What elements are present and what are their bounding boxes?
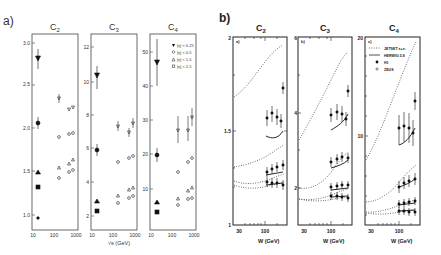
svg-text:c): c): [368, 39, 372, 44]
a-c3-yticks: 12 10 8 6 4 2: [83, 44, 89, 219]
svg-text:2: 2: [228, 35, 231, 41]
a-c2-yticks: 3.0 2.5 2.0 1.5 1.0: [23, 40, 30, 218]
svg-text:30: 30: [236, 228, 242, 234]
svg-text:10: 10: [83, 79, 89, 85]
panel-a-c4-plot: C4 50 40 30 20 10 10 100 1000 |η| < 0.25…: [142, 22, 199, 238]
svg-text:10: 10: [89, 232, 95, 238]
b-c3-points: [330, 85, 349, 202]
svg-text:8: 8: [86, 112, 89, 118]
a-c4-xticks: 10 100 1000: [148, 232, 200, 238]
b-c3-xlabel: W (GeV): [323, 238, 345, 244]
svg-text:100: 100: [261, 228, 270, 234]
svg-text:100: 100: [168, 232, 177, 238]
svg-text:|η| < 0.25: |η| < 0.25: [177, 43, 194, 48]
svg-text:12: 12: [83, 44, 89, 50]
b-c3-herwig: [331, 114, 348, 197]
a-c2-xticks: 10 100 1000: [30, 232, 82, 238]
b-c3-frame: [298, 37, 352, 225]
b-c4-herwig: [399, 128, 415, 211]
svg-text:100: 100: [395, 228, 404, 234]
b-c4-title: C4: [389, 23, 400, 34]
svg-text:b): b): [301, 39, 305, 44]
a-c2-frame: [32, 34, 78, 230]
svg-text:|η| < 1.5: |η| < 1.5: [177, 57, 192, 62]
svg-text:a): a): [236, 39, 240, 44]
b-c2-title: C2: [256, 23, 267, 34]
b-c3-title: C3: [320, 23, 331, 34]
panel-b-label: b): [219, 11, 230, 25]
b-c2-herwig: [266, 131, 283, 185]
b-c3-jetset: [299, 52, 348, 201]
svg-text:2: 2: [294, 185, 297, 191]
svg-text:2.5: 2.5: [23, 81, 30, 87]
panel-b-c3-plot: C3 b) 6 4 2 30 100 W (GeV): [294, 23, 352, 244]
svg-text:1.5: 1.5: [23, 168, 30, 174]
svg-text:20: 20: [142, 151, 148, 157]
svg-text:100: 100: [109, 232, 118, 238]
a-c3-xticks: 10 100 1000: [89, 232, 141, 238]
panel-a-c3-plot: C3 12 10 8 6 4 2 10 100 1000 √s (GeV): [83, 22, 140, 246]
b-c2-xticks: 30 100: [236, 228, 269, 234]
svg-text:20: 20: [357, 35, 363, 41]
svg-text:6: 6: [294, 35, 297, 41]
a-c3-title: C3: [109, 22, 120, 33]
a-c3-points: [95, 66, 100, 213]
b-c4-xlabel: W (GeV): [391, 238, 413, 244]
b-c2-yticks: 2 1.5 1: [224, 35, 231, 228]
svg-text:30: 30: [142, 117, 148, 123]
a-c2-title: C2: [50, 22, 61, 33]
b-c2-xlabel: W (GeV): [258, 238, 280, 244]
svg-text:2.0: 2.0: [23, 125, 30, 131]
svg-text:|η| < 2.5: |η| < 2.5: [177, 64, 192, 69]
a-c2-points: [36, 49, 41, 219]
panel-b-c2-plot: C2 a) 2 1.5 1 30 100 W (GeV): [224, 23, 287, 244]
svg-text:40: 40: [142, 83, 148, 89]
svg-text:50: 50: [142, 49, 148, 55]
panel-b-c4-plot: C4 c) 20 10 30 100 W (GeV) JETSET e+e- H…: [357, 23, 420, 244]
b-c3-yticks: 6 4 2: [294, 35, 297, 191]
svg-text:1000: 1000: [70, 232, 81, 238]
figure-canvas: a) C2 3.0 2.5 2.0 1.5 1.0 10 100 1000: [0, 0, 441, 255]
b-c4-frame: [365, 37, 420, 225]
a-xlabel: √s (GeV): [108, 240, 130, 246]
svg-text:2: 2: [86, 213, 89, 219]
a-c4-yticks: 50 40 30 20 10: [142, 49, 148, 192]
svg-text:1000: 1000: [188, 232, 199, 238]
svg-text:1.5: 1.5: [224, 128, 231, 134]
svg-text:JETSET e+e-: JETSET e+e-: [384, 47, 407, 51]
svg-text:|η| < 0.5: |η| < 0.5: [177, 50, 192, 55]
a-c4-title: C4: [168, 22, 179, 33]
b-c3-xticks: 30 100: [301, 228, 335, 234]
legend-b: JETSET e+e- HERWIG 5.8 H1 ZEUS: [369, 47, 407, 72]
panel-a-label: a): [3, 14, 14, 28]
b-c4-points: [398, 92, 416, 216]
svg-text:30: 30: [368, 228, 374, 234]
svg-text:100: 100: [327, 228, 336, 234]
svg-text:10: 10: [148, 232, 154, 238]
b-c4-xticks: 30 100: [368, 228, 403, 234]
svg-text:6: 6: [86, 145, 89, 151]
svg-text:10: 10: [30, 232, 36, 238]
svg-text:10: 10: [142, 186, 148, 192]
svg-text:1: 1: [228, 222, 231, 228]
svg-text:3.0: 3.0: [23, 40, 30, 46]
svg-text:100: 100: [50, 232, 59, 238]
svg-text:30: 30: [301, 228, 307, 234]
legend-a: |η| < 0.25 |η| < 0.5 |η| < 1.5 |η| < 2.5: [172, 43, 194, 69]
svg-text:H1: H1: [384, 61, 389, 65]
svg-text:1.0: 1.0: [23, 212, 30, 218]
b-c4-yticks: 20 10: [357, 35, 363, 139]
b-c2-frame: [233, 37, 287, 225]
svg-text:ZEUS: ZEUS: [384, 68, 394, 72]
svg-text:HERWIG 5.8: HERWIG 5.8: [384, 54, 405, 58]
svg-text:4: 4: [86, 179, 89, 185]
svg-text:4: 4: [294, 110, 297, 116]
a-c4-points: [155, 39, 160, 214]
svg-text:10: 10: [357, 133, 363, 139]
svg-text:1000: 1000: [129, 232, 140, 238]
panel-a-c2-plot: C2 3.0 2.5 2.0 1.5 1.0 10 100 1000: [23, 22, 82, 238]
